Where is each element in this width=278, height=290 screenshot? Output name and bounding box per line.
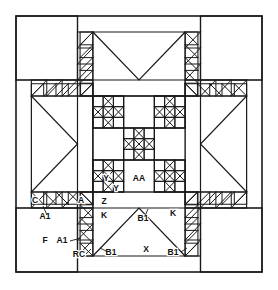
- piece-label-aa: AA: [133, 173, 145, 183]
- piece-label-x: X: [143, 244, 149, 254]
- piece-label-y-left: Y: [103, 173, 109, 183]
- piece-label-b1-mid: B1: [138, 213, 149, 223]
- piece-label-rc: RC: [73, 249, 85, 259]
- piece-label-b1-right: B1: [168, 247, 179, 257]
- piece-label-k-right: K: [170, 208, 177, 218]
- piece-label-a: A: [78, 195, 84, 205]
- feathered-star-block-diagram: CCA1A1AAZZKKKKB1B1AAAAYYYYFFA1A1RCRCB1B1…: [0, 0, 278, 290]
- piece-label-k-left: K: [101, 210, 108, 220]
- piece-label-y-low: Y: [113, 183, 119, 193]
- piece-label-a1-top: A1: [40, 211, 51, 221]
- diagram-canvas: CCA1A1AAZZKKKKB1B1AAAAYYYYFFA1A1RCRCB1B1…: [0, 0, 278, 290]
- piece-label-f: F: [42, 235, 47, 245]
- piece-label-z: Z: [101, 196, 106, 206]
- piece-label-c: C: [32, 195, 38, 205]
- piece-label-a1-bot: A1: [57, 235, 68, 245]
- canvas-background: [0, 0, 278, 290]
